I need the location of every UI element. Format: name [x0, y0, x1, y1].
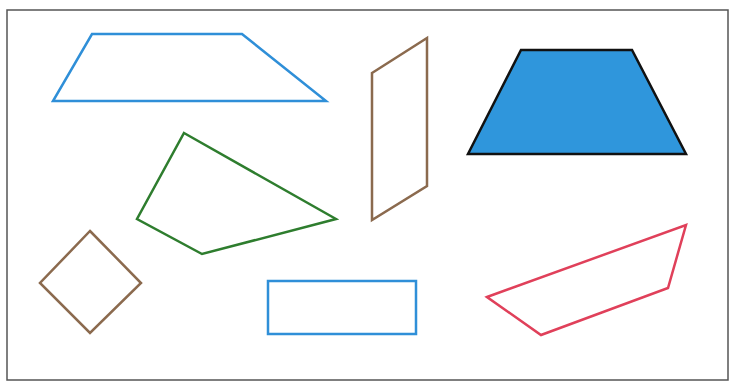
brown-parallelogram — [372, 38, 427, 220]
green-quadrilateral — [137, 133, 336, 254]
brown-rhombus — [40, 231, 141, 333]
blue-trapezoid-outline — [53, 34, 326, 101]
blue-filled-trapezoid — [468, 50, 686, 154]
red-quadrilateral — [487, 225, 686, 335]
shape-layer — [40, 34, 686, 335]
shapes-diagram — [0, 0, 735, 392]
blue-rectangle — [268, 281, 416, 334]
